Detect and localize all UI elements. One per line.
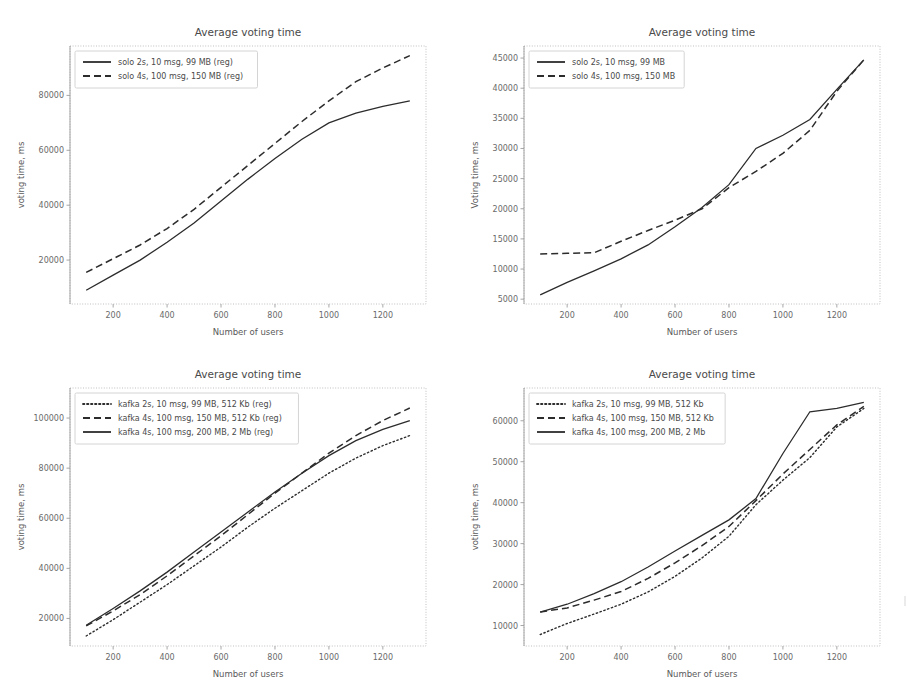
y-tick-label: 40000 bbox=[493, 84, 518, 93]
y-tick-label: 30000 bbox=[493, 540, 518, 549]
y-tick-label: 10000 bbox=[493, 265, 518, 274]
y-axis-label: voting time, ms bbox=[16, 483, 26, 550]
y-tick-label: 20000 bbox=[493, 581, 518, 590]
series-line-1 bbox=[540, 60, 864, 254]
y-tick-label: 100000 bbox=[33, 414, 64, 423]
legend-label-0: kafka 2s, 10 msg, 99 MB, 512 Kb bbox=[572, 400, 704, 409]
x-tick-label: 400 bbox=[613, 653, 628, 662]
y-tick-label: 40000 bbox=[39, 201, 64, 210]
x-tick-label: 400 bbox=[159, 653, 174, 662]
y-tick-label: 40000 bbox=[493, 499, 518, 508]
legend-label-0: kafka 2s, 10 msg, 99 MB, 512 Kb (reg) bbox=[118, 400, 272, 409]
series-line-2 bbox=[86, 421, 410, 626]
x-tick-label: 600 bbox=[667, 311, 682, 320]
x-tick-label: 1200 bbox=[373, 311, 393, 320]
legend-label-1: solo 4s, 100 msg, 150 MB bbox=[572, 72, 675, 81]
x-tick-label: 1000 bbox=[319, 311, 339, 320]
series-line-0 bbox=[86, 436, 410, 636]
x-tick-label: 600 bbox=[213, 653, 228, 662]
y-tick-label: 40000 bbox=[39, 564, 64, 573]
y-tick-label: 30000 bbox=[493, 144, 518, 153]
y-tick-label: 50000 bbox=[493, 458, 518, 467]
y-axis-label: voting time, ms bbox=[470, 483, 480, 550]
y-tick-label: 60000 bbox=[39, 146, 64, 155]
y-tick-label: 45000 bbox=[493, 54, 518, 63]
y-tick-label: 80000 bbox=[39, 91, 64, 100]
legend-label-0: solo 2s, 10 msg, 99 MB bbox=[572, 58, 665, 67]
y-tick-label: 15000 bbox=[493, 235, 518, 244]
x-tick-label: 200 bbox=[106, 653, 121, 662]
x-tick-label: 1200 bbox=[827, 653, 847, 662]
chart-kafka-raw: Average voting time200400600800100012001… bbox=[462, 362, 900, 692]
x-axis-label: Number of users bbox=[213, 669, 284, 679]
x-tick-label: 200 bbox=[106, 311, 121, 320]
y-tick-label: 5000 bbox=[498, 295, 518, 304]
y-axis-label: voting time, ms bbox=[16, 141, 26, 208]
legend-label-2: kafka 4s, 100 msg, 200 MB, 2 Mb (reg) bbox=[118, 428, 273, 437]
figure-canvas: Average voting time200400600800100012002… bbox=[0, 0, 907, 696]
legend[interactable]: kafka 2s, 10 msg, 99 MB, 512 Kbkafka 4s,… bbox=[529, 393, 725, 444]
legend[interactable]: kafka 2s, 10 msg, 99 MB, 512 Kb (reg)kaf… bbox=[75, 393, 298, 444]
scan-artifact bbox=[904, 596, 906, 606]
chart-panel-kafka-reg: Average voting time200400600800100012002… bbox=[8, 362, 446, 692]
legend[interactable]: solo 2s, 10 msg, 99 MB (reg)solo 4s, 100… bbox=[75, 51, 258, 88]
x-tick-label: 800 bbox=[267, 653, 282, 662]
x-tick-label: 600 bbox=[667, 653, 682, 662]
x-tick-label: 800 bbox=[267, 311, 282, 320]
y-tick-label: 20000 bbox=[493, 205, 518, 214]
legend-label-1: kafka 4s, 100 msg, 150 MB, 512 Kb bbox=[572, 414, 714, 423]
chart-panel-kafka-raw: Average voting time200400600800100012001… bbox=[462, 362, 900, 692]
x-axis-label: Number of users bbox=[213, 327, 284, 337]
chart-panel-solo-reg: Average voting time200400600800100012002… bbox=[8, 20, 446, 350]
chart-kafka-reg: Average voting time200400600800100012002… bbox=[8, 362, 446, 692]
x-tick-label: 400 bbox=[613, 311, 628, 320]
x-tick-label: 800 bbox=[721, 653, 736, 662]
y-tick-label: 60000 bbox=[39, 514, 64, 523]
y-tick-label: 60000 bbox=[493, 417, 518, 426]
x-tick-label: 1200 bbox=[373, 653, 393, 662]
x-tick-label: 200 bbox=[560, 311, 575, 320]
x-axis-label: Number of users bbox=[667, 669, 738, 679]
x-tick-label: 1000 bbox=[773, 311, 793, 320]
x-tick-label: 1000 bbox=[319, 653, 339, 662]
chart-panel-solo-raw: Average voting time200400600800100012005… bbox=[462, 20, 900, 350]
chart-title: Average voting time bbox=[195, 368, 302, 380]
y-tick-label: 20000 bbox=[39, 614, 64, 623]
legend-box bbox=[529, 51, 684, 88]
legend-label-0: solo 2s, 10 msg, 99 MB (reg) bbox=[118, 58, 233, 67]
x-tick-label: 800 bbox=[721, 311, 736, 320]
x-tick-label: 400 bbox=[159, 311, 174, 320]
x-tick-label: 600 bbox=[213, 311, 228, 320]
legend[interactable]: solo 2s, 10 msg, 99 MBsolo 4s, 100 msg, … bbox=[529, 51, 684, 88]
legend-label-1: solo 4s, 100 msg, 150 MB (reg) bbox=[118, 72, 243, 81]
y-tick-label: 80000 bbox=[39, 464, 64, 473]
y-tick-label: 35000 bbox=[493, 114, 518, 123]
chart-title: Average voting time bbox=[649, 368, 756, 380]
chart-title: Average voting time bbox=[649, 26, 756, 38]
legend-label-1: kafka 4s, 100 msg, 150 MB, 512 Kb (reg) bbox=[118, 414, 282, 423]
y-tick-label: 10000 bbox=[493, 622, 518, 631]
series-line-0 bbox=[540, 60, 864, 295]
chart-title: Average voting time bbox=[195, 26, 302, 38]
legend-box bbox=[75, 51, 258, 88]
y-tick-label: 20000 bbox=[39, 256, 64, 265]
legend-label-2: kafka 4s, 100 msg, 200 MB, 2 Mb bbox=[572, 428, 705, 437]
series-line-0 bbox=[86, 101, 410, 290]
chart-solo-raw: Average voting time200400600800100012005… bbox=[462, 20, 900, 350]
x-axis-label: Number of users bbox=[667, 327, 738, 337]
x-tick-label: 1200 bbox=[827, 311, 847, 320]
x-tick-label: 1000 bbox=[773, 653, 793, 662]
y-tick-label: 25000 bbox=[493, 175, 518, 184]
chart-solo-reg: Average voting time200400600800100012002… bbox=[8, 20, 446, 350]
x-tick-label: 200 bbox=[560, 653, 575, 662]
y-axis-label: Voting time, ms bbox=[470, 141, 480, 208]
